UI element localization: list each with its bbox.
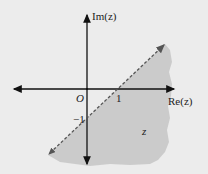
y-tick-label-neg1: −1 xyxy=(73,114,85,125)
region-label-z: z xyxy=(142,126,146,137)
imaginary-axis-label: Im(z) xyxy=(92,11,116,22)
origin-label: O xyxy=(76,93,84,104)
shaded-region xyxy=(48,44,172,166)
diagram-graphics xyxy=(0,0,208,174)
complex-plane-diagram: Im(z) Re(z) O 1 −1 z xyxy=(0,0,208,174)
x-tick-label-1: 1 xyxy=(116,93,122,104)
real-axis-label: Re(z) xyxy=(168,96,192,107)
